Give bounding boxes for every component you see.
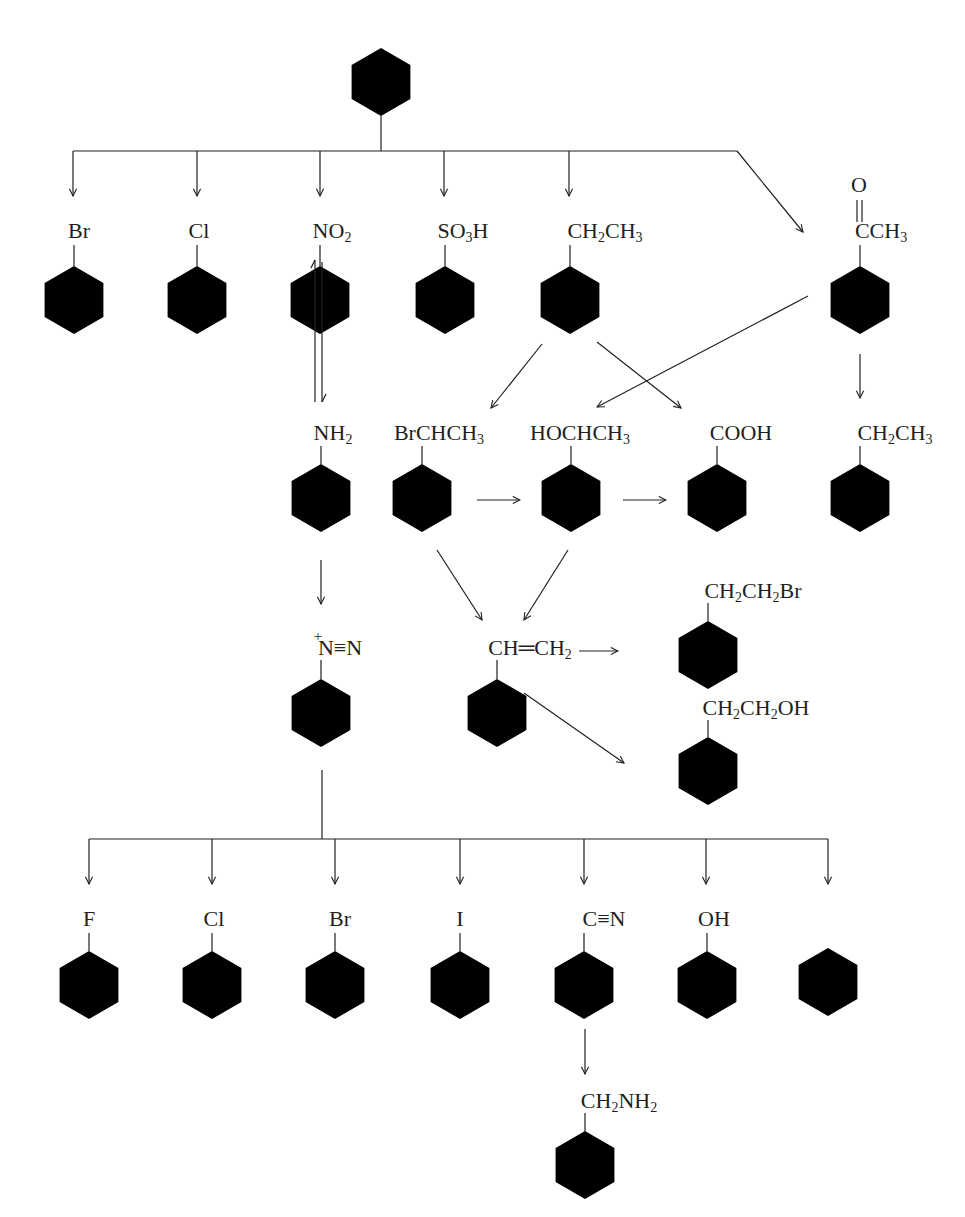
text: CCH — [855, 218, 900, 243]
text: COOH — [710, 420, 772, 445]
subscript: 2 — [733, 707, 740, 722]
subscript: 2 — [650, 1100, 657, 1115]
ring-chlorobenzene — [168, 266, 227, 334]
text: CH — [895, 420, 926, 445]
text: OH — [698, 906, 730, 931]
ring-diazonium — [292, 679, 351, 747]
ring-benzylamine — [556, 1131, 615, 1199]
ring-iodobenzene — [431, 951, 490, 1019]
ring-ethylbenzene — [541, 266, 600, 334]
label-bromobenzene-2: Br — [329, 908, 351, 930]
text: CH — [567, 218, 598, 243]
text: I — [456, 906, 463, 931]
label-diazonium: N≡N — [318, 637, 362, 659]
ring-fluorobenzene — [60, 951, 119, 1019]
text: CH — [703, 695, 734, 720]
subscript: 3 — [623, 432, 630, 447]
ring-phenylethanol — [542, 464, 601, 532]
ring-phenethyl-bromide — [679, 621, 738, 689]
text: F — [83, 906, 95, 931]
text: N≡N — [318, 635, 362, 660]
text: CH — [704, 578, 735, 603]
text: H — [473, 218, 489, 243]
text: Br — [329, 906, 351, 931]
ring-bromoethylbenzene — [393, 464, 452, 532]
double-bond: ═ — [519, 635, 535, 660]
text: Br — [68, 218, 90, 243]
text: Cl — [189, 218, 210, 243]
label-fluorobenzene: F — [83, 908, 95, 930]
text: CH — [740, 695, 771, 720]
label-phenethyl-bromide: CH2CH2Br — [704, 580, 801, 602]
text: OH — [778, 695, 810, 720]
text: BrCHCH — [394, 420, 477, 445]
subscript: 2 — [888, 432, 895, 447]
subscript: 3 — [477, 432, 484, 447]
label-aniline: NH2 — [314, 422, 353, 444]
text: O — [851, 172, 867, 197]
ring-phenol — [678, 951, 737, 1019]
ring-benzene-2 — [799, 948, 858, 1016]
label-nitrobenzene: NO2 — [313, 220, 352, 242]
label-styrene: CH═CH2 — [488, 637, 572, 659]
text: CH — [581, 1088, 612, 1113]
label-iodobenzene: I — [456, 908, 463, 930]
subscript: 2 — [598, 230, 605, 245]
subscript: 2 — [565, 647, 572, 662]
label-bromobenzene: Br — [68, 220, 90, 242]
benzene-ring-start — [352, 48, 411, 116]
text: CH — [534, 635, 565, 660]
label-phenethyl-alcohol: CH2CH2OH — [703, 697, 810, 719]
subscript: 3 — [900, 230, 907, 245]
ring-aniline — [292, 464, 351, 532]
ring-benzenesulfonic — [416, 266, 475, 334]
ring-chlorobenzene-2 — [183, 951, 242, 1019]
label-bromoethylbenzene: BrCHCH3 — [394, 422, 484, 444]
label-benzylamine: CH2NH2 — [581, 1090, 657, 1112]
text: CH — [857, 420, 888, 445]
text: CH — [605, 218, 636, 243]
label-benzenesulfonic: SO3H — [437, 220, 488, 242]
subscript: 2 — [345, 432, 352, 447]
text: NO — [313, 218, 345, 243]
reaction-scheme — [0, 0, 965, 1217]
text: CH — [488, 635, 519, 660]
label-chlorobenzene-2: Cl — [204, 908, 225, 930]
text: C≡N — [583, 906, 626, 931]
subscript: 3 — [926, 432, 933, 447]
label-ethylbenzene: CH2CH3 — [567, 220, 642, 242]
ring-styrene — [468, 679, 527, 747]
text: NH — [314, 420, 346, 445]
subscript: 2 — [735, 590, 742, 605]
ring-benzonitrile — [555, 951, 614, 1019]
subscript: 2 — [344, 230, 351, 245]
ring-phenethyl-alcohol — [679, 737, 738, 805]
label-benzonitrile: C≡N — [583, 908, 626, 930]
ring-bromobenzene-2 — [306, 951, 365, 1019]
label-acetophenone: CCH3 — [855, 220, 907, 242]
ring-bromobenzene — [45, 266, 104, 334]
label-benzoic-acid: COOH — [710, 422, 772, 444]
label-acetophenone-oxygen: O — [851, 174, 867, 196]
text: Br — [780, 578, 802, 603]
subscript: 3 — [636, 230, 643, 245]
text: CH — [742, 578, 773, 603]
text: NH — [618, 1088, 650, 1113]
ring-nitrobenzene — [291, 266, 350, 334]
label-ethylbenzene-2: CH2CH3 — [857, 422, 932, 444]
subscript: 2 — [611, 1100, 618, 1115]
ring-acetophenone — [831, 266, 890, 334]
ring-benzoic-acid — [688, 464, 747, 532]
label-phenol: OH — [698, 908, 730, 930]
label-chlorobenzene: Cl — [189, 220, 210, 242]
text: HOCHCH — [530, 420, 623, 445]
text: SO — [437, 218, 465, 243]
label-phenylethanol: HOCHCH3 — [530, 422, 630, 444]
ring-ethylbenzene-2 — [831, 464, 890, 532]
text: Cl — [204, 906, 225, 931]
